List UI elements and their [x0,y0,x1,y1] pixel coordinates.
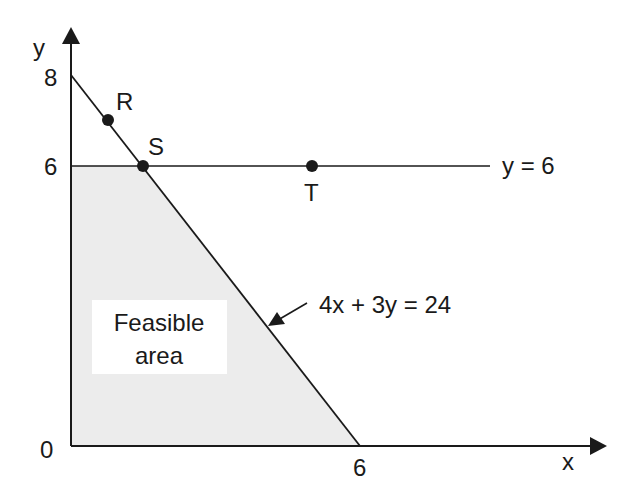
point-s [137,160,149,172]
y-axis-arrow-icon [62,27,80,44]
x-tick-6: 6 [353,454,366,481]
point-s-label: S [148,133,164,160]
y-tick-8: 8 [44,64,57,91]
point-t [306,160,318,172]
feasible-label-line2: area [135,342,184,369]
line-4x3y-label: 4x + 3y = 24 [319,291,451,318]
origin-label: 0 [40,436,53,463]
leader-line [278,303,307,320]
line-y6-label: y = 6 [502,152,555,179]
x-axis-label: x [562,448,574,475]
feasible-label-line1: Feasible [114,309,205,336]
point-r-label: R [116,88,133,115]
y-axis-label: y [33,34,45,61]
y-tick-6: 6 [44,153,57,180]
leader-arrow-icon [268,312,285,326]
x-axis-arrow-icon [590,437,607,455]
point-r [102,114,114,126]
lp-diagram: y 8 6 0 6 x R S T y = 6 4x + 3y = 24 Fea… [0,0,619,491]
point-t-label: T [304,179,319,206]
